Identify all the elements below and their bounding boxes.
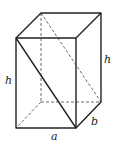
- label-a: a: [51, 130, 58, 143]
- hidden-edges: [16, 13, 101, 128]
- right-back-edges: [76, 13, 101, 128]
- label-b: b: [91, 115, 98, 128]
- label-h-left: h: [5, 74, 12, 87]
- top-face: [16, 13, 101, 38]
- visible-edges: [16, 13, 101, 128]
- prism-diagram: h h a b: [0, 0, 117, 144]
- label-h-right: h: [104, 53, 111, 66]
- hidden-bottom-left-depth: [16, 102, 41, 128]
